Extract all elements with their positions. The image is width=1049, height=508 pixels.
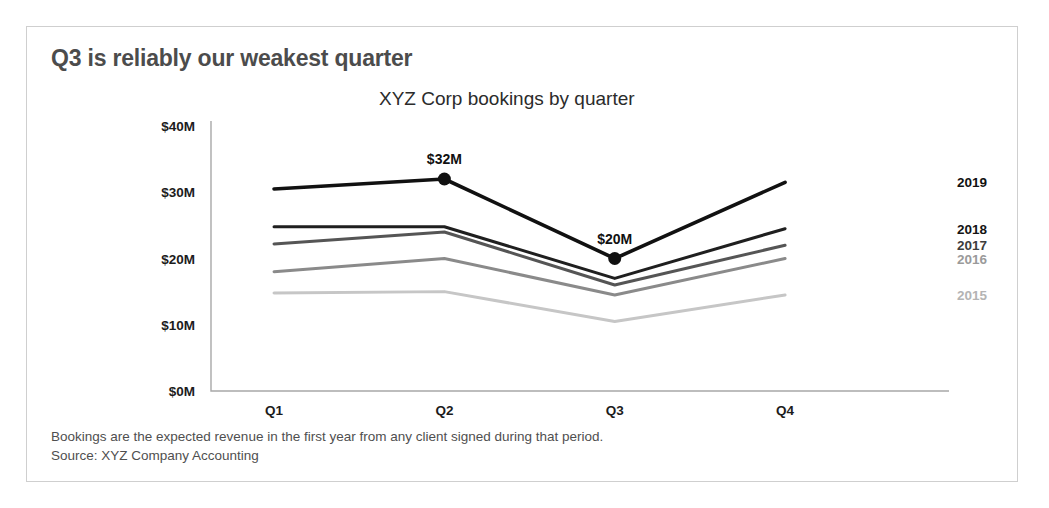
y-axis-tick-labels: $0M$10M$20M$30M$40M xyxy=(161,119,195,399)
y-axis-tick-label: $30M xyxy=(161,185,195,200)
chart-axes xyxy=(211,121,949,391)
chart-card: Q3 is reliably our weakest quarter XYZ C… xyxy=(26,26,1018,482)
x-axis-tick-labels: Q1Q2Q3Q4 xyxy=(265,403,795,418)
series-line-2015 xyxy=(274,292,785,322)
line-chart-plot: $0M$10M$20M$30M$40M Q1Q2Q3Q4 $32M$20M 20… xyxy=(27,27,1019,483)
y-axis-tick-label: $10M xyxy=(161,318,195,333)
y-axis-tick-label: $20M xyxy=(161,252,195,267)
footnote-line-1: Bookings are the expected revenue in the… xyxy=(51,427,603,446)
x-axis-tick-label: Q2 xyxy=(435,403,453,418)
x-axis-tick-label: Q3 xyxy=(606,403,625,418)
chart-series-lines xyxy=(274,179,785,321)
data-point-value-label: $32M xyxy=(427,151,462,167)
x-axis-tick-label: Q4 xyxy=(776,403,795,418)
footnote-line-2: Source: XYZ Company Accounting xyxy=(51,446,603,465)
series-label-2018: 2018 xyxy=(957,222,988,237)
series-label-2015: 2015 xyxy=(957,288,988,303)
x-axis-tick-label: Q1 xyxy=(265,403,284,418)
y-axis-tick-label: $0M xyxy=(169,384,195,399)
chart-series-labels: 20192018201720162015 xyxy=(957,175,988,303)
data-point-marker xyxy=(438,173,451,186)
series-label-2019: 2019 xyxy=(957,175,987,190)
y-axis-tick-label: $40M xyxy=(161,119,195,134)
data-point-value-label: $20M xyxy=(597,231,632,247)
series-label-2016: 2016 xyxy=(957,252,988,267)
chart-footnote: Bookings are the expected revenue in the… xyxy=(51,427,603,465)
data-point-marker xyxy=(608,252,621,265)
axis-lines xyxy=(211,121,949,391)
series-line-2018 xyxy=(274,227,785,279)
series-line-2019 xyxy=(274,179,785,259)
